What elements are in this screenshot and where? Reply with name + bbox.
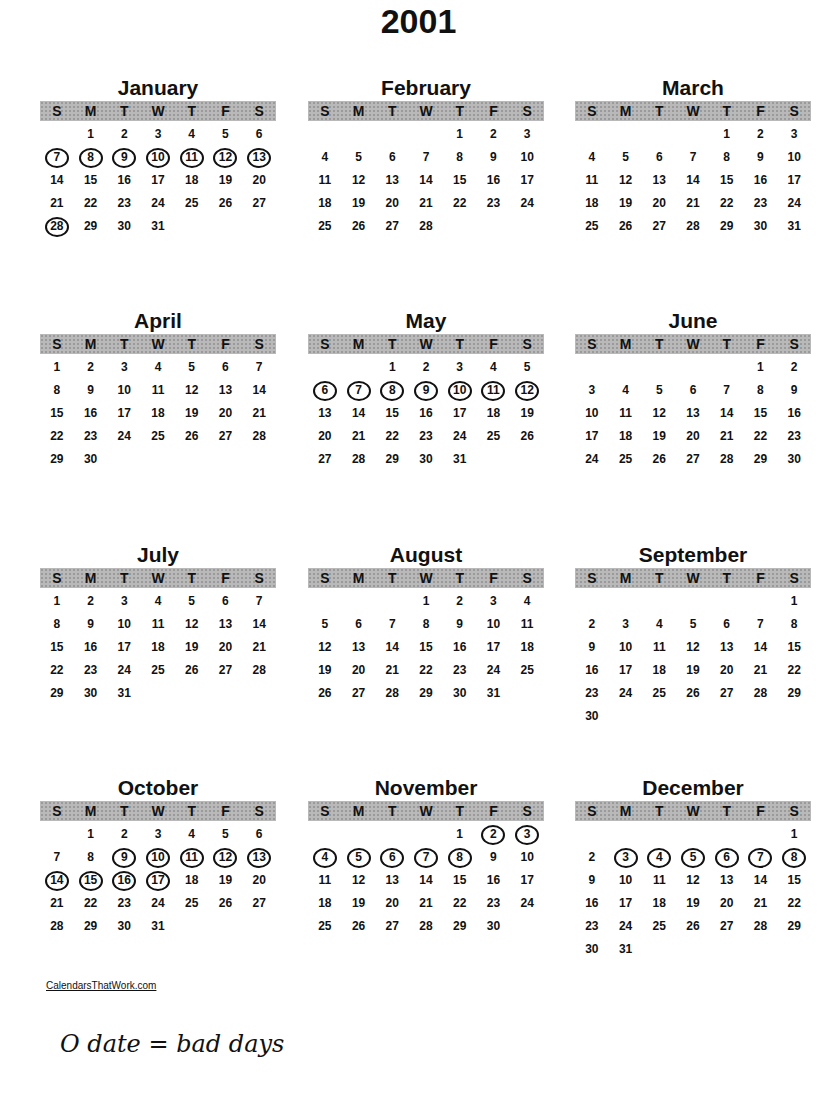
day-cell: 6	[242, 123, 276, 146]
day-cell-circled: 11	[175, 146, 209, 169]
day-cell: 13	[676, 402, 710, 425]
day-cell: 17	[443, 402, 477, 425]
day-cell-circled: 8	[443, 846, 477, 869]
day-cell-circled: 10	[141, 846, 175, 869]
day-cell: 22	[710, 192, 744, 215]
day-cell: 27	[375, 915, 409, 938]
day-cell: 6	[242, 823, 276, 846]
day-cell: 1	[777, 823, 811, 846]
day-cell: 18	[308, 892, 342, 915]
day-cell: 13	[209, 379, 243, 402]
empty-cell	[609, 123, 643, 146]
day-cell: 2	[74, 590, 108, 613]
empty-cell	[676, 356, 710, 379]
day-grid: 1234567891011121314151617181920212223242…	[308, 590, 544, 705]
weekday-label: F	[209, 803, 243, 819]
day-cell: 18	[609, 425, 643, 448]
day-cell: 28	[242, 425, 276, 448]
day-cell: 13	[342, 636, 376, 659]
day-cell: 4	[510, 590, 544, 613]
day-cell: 22	[777, 659, 811, 682]
day-cell: 25	[141, 659, 175, 682]
day-cell: 12	[642, 402, 676, 425]
day-cell: 18	[308, 192, 342, 215]
day-cell-circled: 17	[141, 869, 175, 892]
month-april: AprilSMTWTFS1234567891011121314151617181…	[40, 308, 276, 471]
day-cell: 28	[242, 659, 276, 682]
empty-cell	[342, 590, 376, 613]
day-cell-circled: 7	[342, 379, 376, 402]
day-cell: 27	[710, 682, 744, 705]
day-cell: 26	[609, 215, 643, 238]
day-cell: 9	[744, 146, 778, 169]
weekday-label: S	[777, 803, 811, 819]
month-title: December	[575, 775, 811, 801]
day-cell: 30	[443, 682, 477, 705]
day-grid: 1234567891011121314151617181920212223242…	[575, 590, 811, 728]
day-cell: 20	[375, 192, 409, 215]
day-cell: 30	[107, 915, 141, 938]
day-cell: 16	[744, 169, 778, 192]
day-cell: 18	[141, 636, 175, 659]
day-cell: 26	[175, 425, 209, 448]
footer-link[interactable]: CalendarsThatWork.com	[46, 980, 156, 991]
day-cell: 3	[443, 356, 477, 379]
day-cell: 4	[175, 123, 209, 146]
weekday-label: M	[74, 803, 108, 819]
day-cell: 31	[609, 938, 643, 961]
day-cell: 1	[40, 356, 74, 379]
weekday-label: F	[477, 103, 511, 119]
month-title: June	[575, 308, 811, 334]
day-cell: 29	[74, 215, 108, 238]
day-cell: 26	[209, 892, 243, 915]
day-cell: 6	[209, 356, 243, 379]
day-cell: 25	[175, 192, 209, 215]
day-grid: 1234567891011121314151617181920212223242…	[308, 823, 544, 938]
day-cell: 2	[575, 846, 609, 869]
weekday-label: M	[74, 336, 108, 352]
day-cell: 10	[107, 613, 141, 636]
day-cell: 11	[510, 613, 544, 636]
weekday-label: M	[342, 803, 376, 819]
day-cell: 7	[676, 146, 710, 169]
day-cell-circled: 11	[477, 379, 511, 402]
day-cell-circled: 9	[107, 146, 141, 169]
day-cell: 13	[710, 869, 744, 892]
day-cell: 15	[375, 402, 409, 425]
weekday-label: F	[209, 336, 243, 352]
weekday-label: S	[242, 803, 276, 819]
day-cell: 15	[74, 169, 108, 192]
weekday-header: SMTWTFS	[575, 334, 811, 354]
day-cell: 4	[642, 613, 676, 636]
day-cell: 5	[676, 613, 710, 636]
day-cell: 14	[710, 402, 744, 425]
empty-cell	[375, 123, 409, 146]
day-cell: 12	[342, 869, 376, 892]
day-cell: 10	[777, 146, 811, 169]
day-cell: 23	[575, 915, 609, 938]
day-cell: 1	[744, 356, 778, 379]
day-cell: 31	[141, 915, 175, 938]
day-cell: 29	[710, 215, 744, 238]
day-cell: 5	[308, 613, 342, 636]
day-cell: 12	[175, 379, 209, 402]
day-cell: 23	[477, 192, 511, 215]
day-cell: 23	[443, 659, 477, 682]
day-cell-circled: 5	[342, 846, 376, 869]
day-cell: 29	[777, 682, 811, 705]
day-cell: 3	[609, 613, 643, 636]
weekday-label: T	[175, 103, 209, 119]
weekday-label: T	[107, 103, 141, 119]
day-cell: 23	[409, 425, 443, 448]
day-cell: 7	[744, 613, 778, 636]
day-cell: 30	[744, 215, 778, 238]
day-cell: 18	[510, 636, 544, 659]
day-cell: 24	[107, 425, 141, 448]
day-cell: 22	[40, 659, 74, 682]
empty-cell	[308, 123, 342, 146]
month-june: JuneSMTWTFS12345678910111213141516171819…	[575, 308, 811, 471]
day-cell: 1	[74, 823, 108, 846]
day-cell-circled: 12	[209, 146, 243, 169]
empty-cell	[308, 356, 342, 379]
day-grid: 1234567891011121314151617181920212223242…	[575, 123, 811, 238]
